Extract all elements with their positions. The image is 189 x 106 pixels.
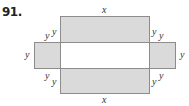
- left-tab: [34, 42, 61, 69]
- label-bottom-x: x: [102, 95, 106, 105]
- label-bottom-left-inner-y: y: [52, 77, 56, 87]
- label-top-left-outer-y: y: [45, 31, 49, 41]
- label-top-x: x: [102, 5, 106, 15]
- label-bottom-right-inner-y: y: [152, 77, 156, 87]
- center-rectangle: [60, 42, 150, 69]
- label-bottom-right-outer-y: y: [159, 71, 163, 81]
- right-tab: [149, 42, 176, 69]
- label-top-right-outer-y: y: [159, 31, 163, 41]
- problem-number: 91.: [2, 5, 22, 19]
- top-rectangle: [60, 16, 150, 43]
- label-top-left-inner-y: y: [52, 27, 56, 37]
- label-right-y: y: [180, 50, 184, 60]
- label-left-y: y: [25, 50, 29, 60]
- bottom-rectangle: [60, 68, 150, 94]
- label-bottom-left-outer-y: y: [45, 71, 49, 81]
- label-top-right-inner-y: y: [152, 27, 156, 37]
